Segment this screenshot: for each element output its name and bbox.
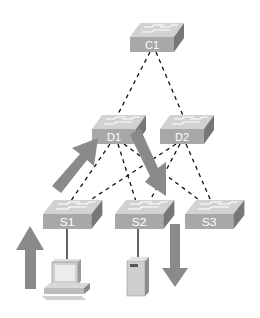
- arrow-down-icon: [162, 224, 188, 287]
- switch-c1-label: C1: [145, 39, 159, 51]
- svg-text:S2: S2: [132, 216, 147, 227]
- arrow-up-icon: [16, 226, 44, 289]
- switch-s1[interactable]: S1: [43, 200, 102, 229]
- switch-d2[interactable]: D2: [160, 115, 214, 144]
- network-diagram: C1 D1 D2 S1 S2 S3: [0, 0, 260, 318]
- svg-text:S3: S3: [202, 216, 217, 227]
- svg-text:S1: S1: [60, 216, 75, 227]
- arrow-up-right-icon: [52, 138, 98, 193]
- workstation-icon[interactable]: [42, 259, 90, 300]
- server-icon[interactable]: [127, 257, 149, 296]
- svg-text:D1: D1: [107, 131, 121, 143]
- svg-text:D2: D2: [175, 131, 189, 143]
- switch-s3[interactable]: S3: [185, 200, 244, 229]
- switch-s2[interactable]: S2: [115, 200, 174, 229]
- switch-c1[interactable]: C1: [130, 23, 184, 52]
